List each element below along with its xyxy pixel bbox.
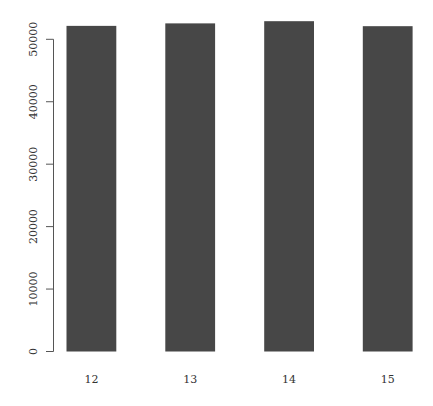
y-tick-label: 50000 <box>27 22 40 57</box>
x-tick-label: 15 <box>381 373 395 386</box>
bar-14 <box>264 21 314 351</box>
y-tick-label: 0 <box>27 348 40 355</box>
y-tick-label: 20000 <box>27 209 40 244</box>
x-tick-label: 13 <box>183 373 197 386</box>
x-axis-labels: 12131415 <box>84 373 394 386</box>
bar-13 <box>165 23 215 351</box>
y-axis: 01000020000300004000050000 <box>27 22 54 355</box>
y-tick-label: 10000 <box>27 272 40 307</box>
bars-group <box>67 21 413 351</box>
x-tick-label: 12 <box>84 373 98 386</box>
bar-15 <box>363 26 413 351</box>
y-tick-label: 40000 <box>27 84 40 119</box>
x-tick-label: 14 <box>282 373 296 386</box>
y-tick-label: 30000 <box>27 147 40 182</box>
bar-12 <box>67 26 117 352</box>
bar-chart: 01000020000300004000050000 12131415 <box>0 0 433 406</box>
